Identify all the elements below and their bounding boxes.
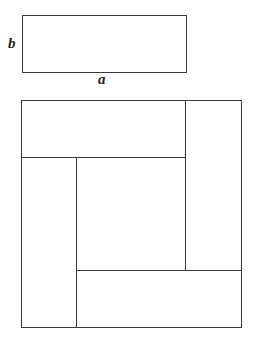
label-a: a <box>98 72 106 87</box>
label-b: b <box>8 36 16 51</box>
bottom-rect-top-edge <box>76 270 242 271</box>
small-rectangle <box>22 15 187 73</box>
right-rect-left-edge <box>185 100 186 271</box>
top-rect-bottom-edge <box>21 157 186 158</box>
large-square <box>21 100 242 328</box>
left-rect-right-edge <box>76 157 77 328</box>
